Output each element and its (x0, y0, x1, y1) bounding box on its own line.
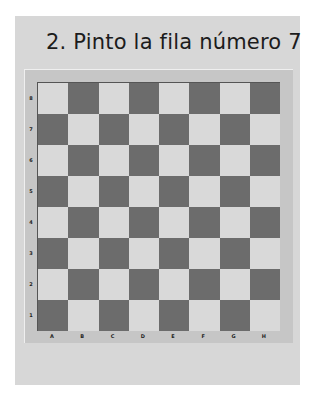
square-g5[interactable] (220, 176, 250, 207)
chessboard (37, 82, 280, 331)
square-g6[interactable] (220, 145, 250, 176)
file-label: F (188, 333, 218, 339)
square-e8[interactable] (159, 83, 189, 114)
square-g4[interactable] (220, 207, 250, 238)
square-h8[interactable] (250, 83, 280, 114)
rank-label: 1 (27, 312, 35, 318)
exercise-title: 2. Pinto la fila número 7 (46, 30, 302, 54)
square-f3[interactable] (189, 238, 219, 269)
square-b7[interactable] (68, 114, 98, 145)
square-f6[interactable] (189, 145, 219, 176)
square-d8[interactable] (129, 83, 159, 114)
square-a3[interactable] (38, 238, 68, 269)
file-label: H (249, 333, 279, 339)
square-b3[interactable] (68, 238, 98, 269)
square-b8[interactable] (68, 83, 98, 114)
rank-label: 8 (27, 95, 35, 101)
square-c5[interactable] (99, 176, 129, 207)
square-a4[interactable] (38, 207, 68, 238)
square-e4[interactable] (159, 207, 189, 238)
square-g1[interactable] (220, 300, 250, 331)
square-e5[interactable] (159, 176, 189, 207)
square-a1[interactable] (38, 300, 68, 331)
square-g8[interactable] (220, 83, 250, 114)
file-label: E (158, 333, 188, 339)
file-label: A (37, 333, 67, 339)
square-e1[interactable] (159, 300, 189, 331)
square-d2[interactable] (129, 269, 159, 300)
square-f1[interactable] (189, 300, 219, 331)
square-g7[interactable] (220, 114, 250, 145)
square-e3[interactable] (159, 238, 189, 269)
rank-label: 5 (27, 188, 35, 194)
square-a7[interactable] (38, 114, 68, 145)
square-d3[interactable] (129, 238, 159, 269)
square-c4[interactable] (99, 207, 129, 238)
square-a5[interactable] (38, 176, 68, 207)
square-c8[interactable] (99, 83, 129, 114)
file-label: G (219, 333, 249, 339)
worksheet-panel: 2. Pinto la fila número 7 87654321 ABCDE… (15, 16, 300, 385)
square-c6[interactable] (99, 145, 129, 176)
rank-label: 2 (27, 281, 35, 287)
square-e6[interactable] (159, 145, 189, 176)
square-f4[interactable] (189, 207, 219, 238)
square-g2[interactable] (220, 269, 250, 300)
square-d6[interactable] (129, 145, 159, 176)
square-a6[interactable] (38, 145, 68, 176)
square-b2[interactable] (68, 269, 98, 300)
square-b4[interactable] (68, 207, 98, 238)
square-b1[interactable] (68, 300, 98, 331)
square-a2[interactable] (38, 269, 68, 300)
square-d5[interactable] (129, 176, 159, 207)
square-c3[interactable] (99, 238, 129, 269)
rank-label: 7 (27, 126, 35, 132)
file-label: B (67, 333, 97, 339)
square-d1[interactable] (129, 300, 159, 331)
square-h1[interactable] (250, 300, 280, 331)
file-label: D (128, 333, 158, 339)
square-c2[interactable] (99, 269, 129, 300)
rank-label: 6 (27, 157, 35, 163)
square-b6[interactable] (68, 145, 98, 176)
square-h3[interactable] (250, 238, 280, 269)
square-g3[interactable] (220, 238, 250, 269)
square-e2[interactable] (159, 269, 189, 300)
square-f2[interactable] (189, 269, 219, 300)
rank-label: 4 (27, 219, 35, 225)
square-f7[interactable] (189, 114, 219, 145)
square-h4[interactable] (250, 207, 280, 238)
square-b5[interactable] (68, 176, 98, 207)
square-a8[interactable] (38, 83, 68, 114)
square-h7[interactable] (250, 114, 280, 145)
square-f8[interactable] (189, 83, 219, 114)
rank-label: 3 (27, 250, 35, 256)
square-h5[interactable] (250, 176, 280, 207)
square-e7[interactable] (159, 114, 189, 145)
square-h2[interactable] (250, 269, 280, 300)
square-d4[interactable] (129, 207, 159, 238)
chessboard-frame: 87654321 ABCDEFGH (24, 69, 293, 343)
file-label: C (98, 333, 128, 339)
square-f5[interactable] (189, 176, 219, 207)
square-h6[interactable] (250, 145, 280, 176)
square-c7[interactable] (99, 114, 129, 145)
square-d7[interactable] (129, 114, 159, 145)
square-c1[interactable] (99, 300, 129, 331)
